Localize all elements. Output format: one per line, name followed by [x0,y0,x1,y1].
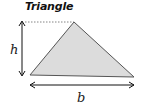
height-arrow [19,21,25,76]
triangle-diagram: h b [0,0,148,110]
base-arrow [30,82,134,88]
base-label: b [77,90,85,105]
height-label: h [10,42,18,57]
triangle-shape [30,22,134,77]
